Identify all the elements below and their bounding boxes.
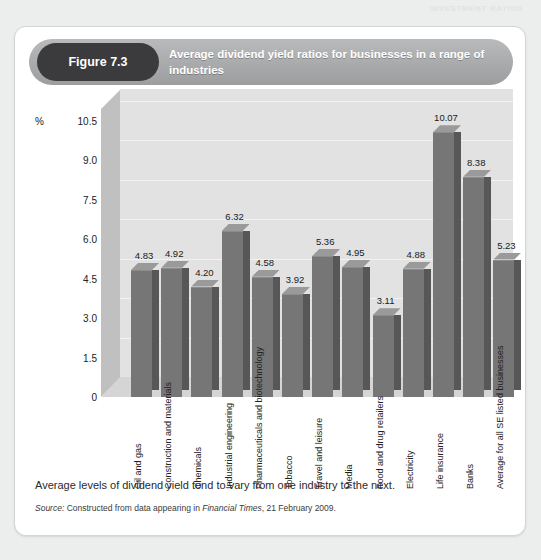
x-axis-category-label: Tobacco bbox=[284, 385, 295, 489]
bar-side-face bbox=[333, 256, 340, 390]
bar-front-face bbox=[131, 270, 152, 397]
y-axis: % 01.53.04.56.07.59.010.5 bbox=[29, 89, 101, 419]
bar-value-label: 3.92 bbox=[275, 274, 315, 285]
x-axis-category-label: Travel and leisure bbox=[314, 385, 325, 489]
running-header: INVESTMENT RATIOS bbox=[0, 0, 541, 18]
y-axis-tick: 0 bbox=[91, 392, 97, 403]
bar-value-label: 4.58 bbox=[245, 257, 285, 268]
bar-value-label: 3.11 bbox=[366, 295, 406, 306]
source-text-2: , 21 February 2009. bbox=[262, 503, 336, 513]
bar-value-label: 4.88 bbox=[396, 249, 436, 260]
chart-left-wall bbox=[101, 89, 121, 399]
bar: 5.36 bbox=[312, 256, 333, 397]
x-axis-category-label: Banks bbox=[465, 385, 476, 489]
figure-banner: Figure 7.3 Average dividend yield ratios… bbox=[29, 39, 513, 85]
bar-side-face bbox=[394, 315, 401, 390]
y-axis-tick: 4.5 bbox=[83, 273, 97, 284]
bar: 4.92 bbox=[161, 268, 182, 397]
bar-side-face bbox=[363, 267, 370, 390]
bar-front-face bbox=[191, 287, 212, 397]
bar-front-face bbox=[433, 132, 454, 397]
bar-front-face bbox=[282, 294, 303, 397]
figure-title: Average dividend yield ratios for busine… bbox=[169, 46, 499, 78]
bar-front-face bbox=[222, 231, 243, 397]
source-publication: Financial Times bbox=[202, 503, 261, 513]
bar-front-face bbox=[161, 268, 182, 397]
bar-front-face bbox=[312, 256, 333, 397]
bar: 4.88 bbox=[403, 269, 424, 397]
bar-front-face bbox=[403, 269, 424, 397]
bar-side-face bbox=[454, 132, 461, 390]
bar-value-label: 10.07 bbox=[426, 112, 466, 123]
bar-side-face bbox=[273, 277, 280, 390]
figure-number-label: Figure 7.3 bbox=[37, 43, 159, 81]
x-axis-category-label: Construction and materials bbox=[163, 385, 174, 489]
bar-side-face bbox=[514, 260, 521, 390]
bar-side-face bbox=[243, 231, 250, 390]
x-axis-category-label: Media bbox=[344, 385, 355, 489]
y-axis-tick: 7.5 bbox=[83, 194, 97, 205]
bar-value-label: 6.32 bbox=[215, 211, 255, 222]
source-prefix: Source: bbox=[35, 503, 64, 513]
bar-side-face bbox=[424, 269, 431, 390]
y-axis-tick: 1.5 bbox=[83, 352, 97, 363]
bar: 4.95 bbox=[342, 267, 363, 397]
y-axis-tick: 9.0 bbox=[83, 155, 97, 166]
bar: 4.83 bbox=[131, 270, 152, 397]
bar-side-face bbox=[484, 177, 491, 390]
x-axis-category-label: Life insurance bbox=[435, 385, 446, 489]
figure-card: Figure 7.3 Average dividend yield ratios… bbox=[14, 26, 526, 536]
bar-value-label: 4.95 bbox=[335, 247, 375, 258]
x-axis-category-label: Electricity bbox=[405, 385, 416, 489]
x-axis-category-label: Industrial engineering bbox=[224, 385, 235, 489]
bar-value-label: 4.20 bbox=[184, 267, 224, 278]
chart-area: % 01.53.04.56.07.59.010.5 4.83Oil and ga… bbox=[29, 89, 513, 419]
bar-side-face bbox=[152, 270, 159, 390]
bar: 6.32 bbox=[222, 231, 243, 397]
bar-value-label: 8.38 bbox=[456, 157, 496, 168]
x-axis-category-label: Oil and gas bbox=[133, 385, 144, 489]
bar-front-face bbox=[463, 177, 484, 397]
y-axis-tick: 6.0 bbox=[83, 234, 97, 245]
bar-front-face bbox=[342, 267, 363, 397]
x-axis-category-label: Food and drug retailers bbox=[375, 385, 386, 489]
bar-value-label: 4.92 bbox=[154, 248, 194, 259]
figure-number-badge: Figure 7.3 bbox=[37, 43, 159, 81]
y-axis-unit-label: % bbox=[35, 116, 44, 127]
y-axis-tick: 3.0 bbox=[83, 313, 97, 324]
bar-side-face bbox=[303, 294, 310, 390]
plot-area: 4.83Oil and gas4.92Construction and mate… bbox=[101, 89, 513, 419]
source-text-1: Constructed from data appearing in bbox=[64, 503, 202, 513]
figure-source: Source: Constructed from data appearing … bbox=[35, 503, 505, 513]
x-axis-category-label: Chemicals bbox=[193, 385, 204, 489]
x-axis-category-label: Average for all SE listed businesses bbox=[495, 385, 506, 489]
bar: 3.92 bbox=[282, 294, 303, 397]
figure-caption: Average levels of dividend yield tend to… bbox=[35, 479, 505, 491]
bar-side-face bbox=[212, 287, 219, 390]
bar-side-face bbox=[182, 268, 189, 390]
bar: 10.07 bbox=[433, 132, 454, 397]
x-axis-category-label: Pharmaceuticals and biotechnology bbox=[254, 385, 265, 489]
bar: 8.38 bbox=[463, 177, 484, 397]
chart-gridline bbox=[120, 101, 513, 102]
bar-value-label: 5.36 bbox=[305, 236, 345, 247]
bar: 4.20 bbox=[191, 287, 212, 397]
bar-value-label: 5.23 bbox=[486, 240, 526, 251]
y-axis-tick: 10.5 bbox=[78, 116, 97, 127]
